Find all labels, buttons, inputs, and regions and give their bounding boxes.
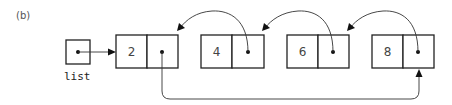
node-2-value: 4	[213, 45, 221, 59]
node-4-value: 8	[384, 45, 392, 59]
list-pointer-box	[66, 40, 116, 64]
node-3: 6	[287, 35, 349, 68]
node-1: 2	[116, 35, 178, 68]
node-3-value: 6	[299, 45, 307, 59]
node-4: 8	[372, 35, 434, 68]
node-2: 4	[201, 35, 264, 68]
node-1-value: 2	[128, 45, 136, 59]
linked-list-diagram: 2 4 6 8	[0, 0, 452, 105]
